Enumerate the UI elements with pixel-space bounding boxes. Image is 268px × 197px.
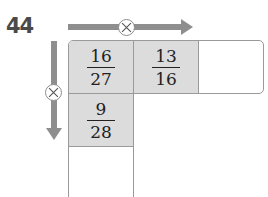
fraction-bar <box>87 120 115 121</box>
numerator: 13 <box>155 47 177 65</box>
down-arrow-head-icon <box>46 128 62 140</box>
multiply-circle-icon <box>118 19 135 36</box>
fraction-bar <box>152 67 180 68</box>
right-arrow-head-icon <box>181 19 193 35</box>
denominator: 28 <box>90 123 112 141</box>
answer-cell-horizontal[interactable] <box>199 41 263 93</box>
fraction: 9 28 <box>87 100 115 141</box>
fraction: 16 27 <box>87 47 115 88</box>
cell-given-3: 9 28 <box>69 93 133 146</box>
denominator: 27 <box>90 70 112 88</box>
problem-number: 44 <box>6 14 33 38</box>
numerator: 16 <box>90 47 112 65</box>
left-column: 9 28 <box>68 93 134 197</box>
denominator: 16 <box>155 70 177 88</box>
top-row: 16 27 13 16 <box>68 40 264 94</box>
answer-cell-vertical[interactable] <box>69 146 133 197</box>
cell-given-2: 13 16 <box>134 41 199 93</box>
multiply-circle-icon <box>45 84 62 101</box>
fraction-bar <box>87 67 115 68</box>
cell-given-1: 16 27 <box>69 41 134 93</box>
fraction: 13 16 <box>152 47 180 88</box>
numerator: 9 <box>96 100 107 118</box>
